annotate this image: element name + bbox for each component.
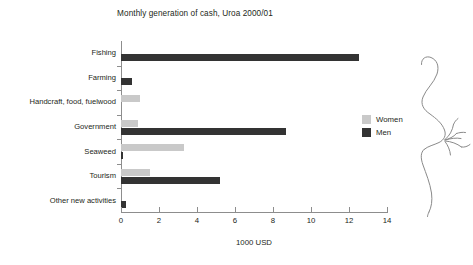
bar-chart-figure: Monthly generation of cash, Uroa 2000/01… [0, 0, 473, 265]
chart-title: Monthly generation of cash, Uroa 2000/01 [0, 9, 390, 18]
chart-legend: Women Men [362, 113, 403, 139]
bar-men-government [121, 128, 286, 135]
bar-women-tourism [121, 169, 150, 176]
y-axis-label-handcraft-food-fuelwood: Handcraft, food, fuelwood [8, 97, 116, 106]
legend-label-men: Men [376, 128, 391, 137]
x-axis-tick [387, 207, 388, 213]
y-axis-tick [117, 90, 121, 91]
bar-men-seaweed [121, 152, 123, 159]
x-axis-tick-label: 2 [149, 216, 169, 225]
bar-women-seaweed [121, 144, 184, 151]
y-axis-tick [117, 139, 121, 140]
x-axis-tick [311, 207, 312, 213]
y-axis-label-seaweed: Seaweed [8, 147, 116, 156]
y-axis-tick [117, 66, 121, 67]
bar-women-government [121, 120, 138, 127]
y-axis-category-labels: FishingFarmingHandcraft, food, fuelwoodG… [4, 41, 116, 213]
legend-label-women: Women [376, 115, 403, 124]
legend-item-women: Women [362, 113, 403, 126]
y-axis-label-farming: Farming [8, 73, 116, 82]
bar-men-farming [121, 78, 132, 85]
x-axis-tick [121, 207, 122, 213]
x-axis-title: 1000 USD [121, 238, 387, 247]
x-axis-tick-label: 4 [187, 216, 207, 225]
x-axis-tick [197, 207, 198, 213]
x-axis-tick [235, 207, 236, 213]
y-axis-tick [117, 115, 121, 116]
seaweed-sprig-icon [404, 52, 473, 217]
x-axis-tick-label: 12 [339, 216, 359, 225]
plot-area [121, 41, 387, 213]
x-axis-tick-label: 10 [301, 216, 321, 225]
bar-men-fishing [121, 54, 359, 61]
x-axis-tick [349, 207, 350, 213]
bar-men-tourism [121, 177, 220, 184]
x-axis-tick-label: 0 [111, 216, 131, 225]
y-axis-label-fishing: Fishing [8, 48, 116, 57]
legend-swatch-men-icon [362, 128, 371, 137]
y-axis-label-tourism: Tourism [8, 171, 116, 180]
y-axis-label-government: Government [8, 122, 116, 131]
y-axis-tick [117, 188, 121, 189]
legend-item-men: Men [362, 126, 403, 139]
x-axis-tick-label: 8 [263, 216, 283, 225]
y-axis-label-other-new-activities: Other new activities [8, 196, 116, 205]
x-axis-tick-label: 6 [225, 216, 245, 225]
x-axis-tick [273, 207, 274, 213]
y-axis-tick [117, 164, 121, 165]
legend-swatch-women-icon [362, 115, 371, 124]
bar-women-handcraft-food-fuelwood [121, 95, 140, 102]
x-axis-tick-label: 14 [377, 216, 397, 225]
x-axis-tick [159, 207, 160, 213]
